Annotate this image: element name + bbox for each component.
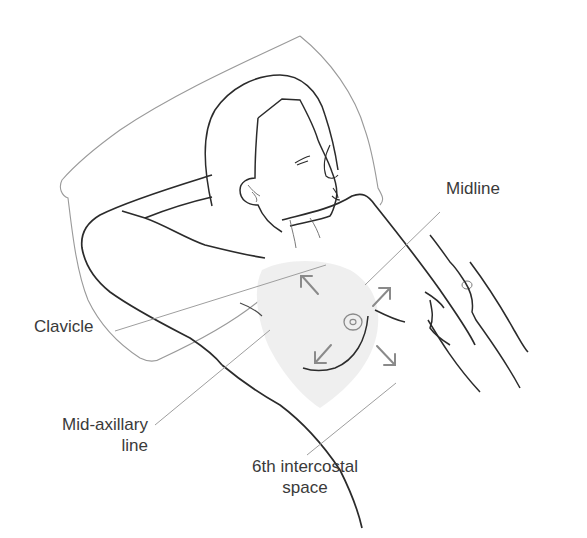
- arrow-up-right-icon: [373, 288, 390, 306]
- breast-exam-area: [257, 261, 378, 408]
- raised-arm-outline: [82, 175, 222, 365]
- right-breast-lower: [375, 310, 480, 392]
- label-intercostal-line-2: space: [240, 477, 370, 498]
- label-clavicle: Clavicle: [34, 316, 94, 337]
- label-midline: Midline: [446, 178, 500, 199]
- arrow-down-right-icon: [377, 346, 395, 365]
- leader-line-midaxillary: [155, 330, 270, 425]
- forearm-outline: [122, 197, 265, 258]
- label-6th-intercostal-space: 6th intercostal space: [240, 456, 370, 498]
- hairline-outline: [258, 99, 318, 140]
- right-shoulder-line: [470, 262, 528, 352]
- label-mid-axillary-line-2: line: [40, 435, 148, 456]
- label-intercostal-line-1: 6th intercostal: [240, 456, 370, 477]
- ear-detail: [248, 185, 260, 202]
- label-mid-axillary-line: Mid-axillary line: [40, 414, 148, 456]
- face-outline: [240, 118, 337, 232]
- eye: [295, 156, 310, 165]
- right-side-line: [430, 235, 520, 388]
- label-mid-axillary-line-1: Mid-axillary: [40, 414, 148, 435]
